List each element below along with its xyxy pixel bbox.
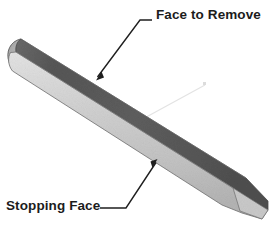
bar-edge-between-faces (16, 52, 233, 188)
callout-leader-stopping-face (100, 159, 158, 208)
bar-front-face (9, 52, 268, 219)
callout-label-face-to-remove: Face to Remove (156, 8, 261, 22)
technical-illustration-figure: Face to Remove Stopping Face (0, 0, 272, 226)
illustration-canvas (0, 0, 272, 226)
callout-leader-face-to-remove (96, 20, 152, 81)
bar-top-edge-highlight (21, 39, 246, 178)
callout-label-stopping-face: Stopping Face (6, 199, 100, 213)
tapered-bar-object (8, 39, 268, 219)
